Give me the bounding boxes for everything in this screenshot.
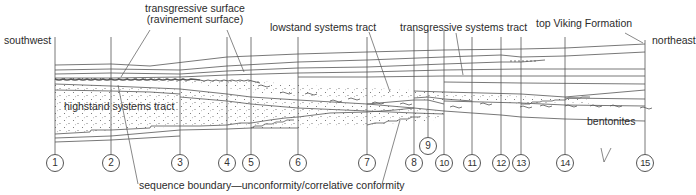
well-marker-3: 3 [171, 154, 189, 172]
well-marker-14: 14 [556, 154, 574, 172]
lowstand-systems-tract-label: lowstand systems tract [270, 22, 376, 33]
transgressive-surface-label: transgressive surface (ravinement surfac… [135, 3, 255, 25]
bentonites-label: bentonites [587, 116, 635, 127]
top-viking-formation-label: top Viking Formation [536, 18, 632, 29]
well-marker-1: 1 [46, 154, 64, 172]
highstand-systems-tract-label: highstand systems tract [64, 101, 174, 112]
well-marker-7: 7 [358, 154, 376, 172]
top-viking-line [55, 44, 645, 66]
well-marker-12: 12 [492, 154, 510, 172]
well-marker-10: 10 [435, 154, 453, 172]
well-marker-8: 8 [405, 154, 423, 172]
transgressive-systems-tract-label: transgressive systems tract [400, 22, 527, 33]
well-marker-13: 13 [512, 154, 530, 172]
well-marker-2: 2 [102, 154, 120, 172]
well-marker-15: 15 [636, 154, 654, 172]
southwest-label: southwest [4, 35, 51, 46]
well-marker-5: 5 [242, 154, 260, 172]
well-marker-11: 11 [463, 154, 481, 172]
sequence-boundary-label: sequence boundary—unconformity/correlati… [139, 180, 405, 191]
well-marker-6: 6 [289, 154, 307, 172]
well-marker-4: 4 [218, 154, 236, 172]
northeast-label: northeast [652, 35, 696, 46]
well-marker-9: 9 [419, 137, 437, 155]
transgressive-surface-line2: (ravinement surface) [135, 14, 255, 25]
